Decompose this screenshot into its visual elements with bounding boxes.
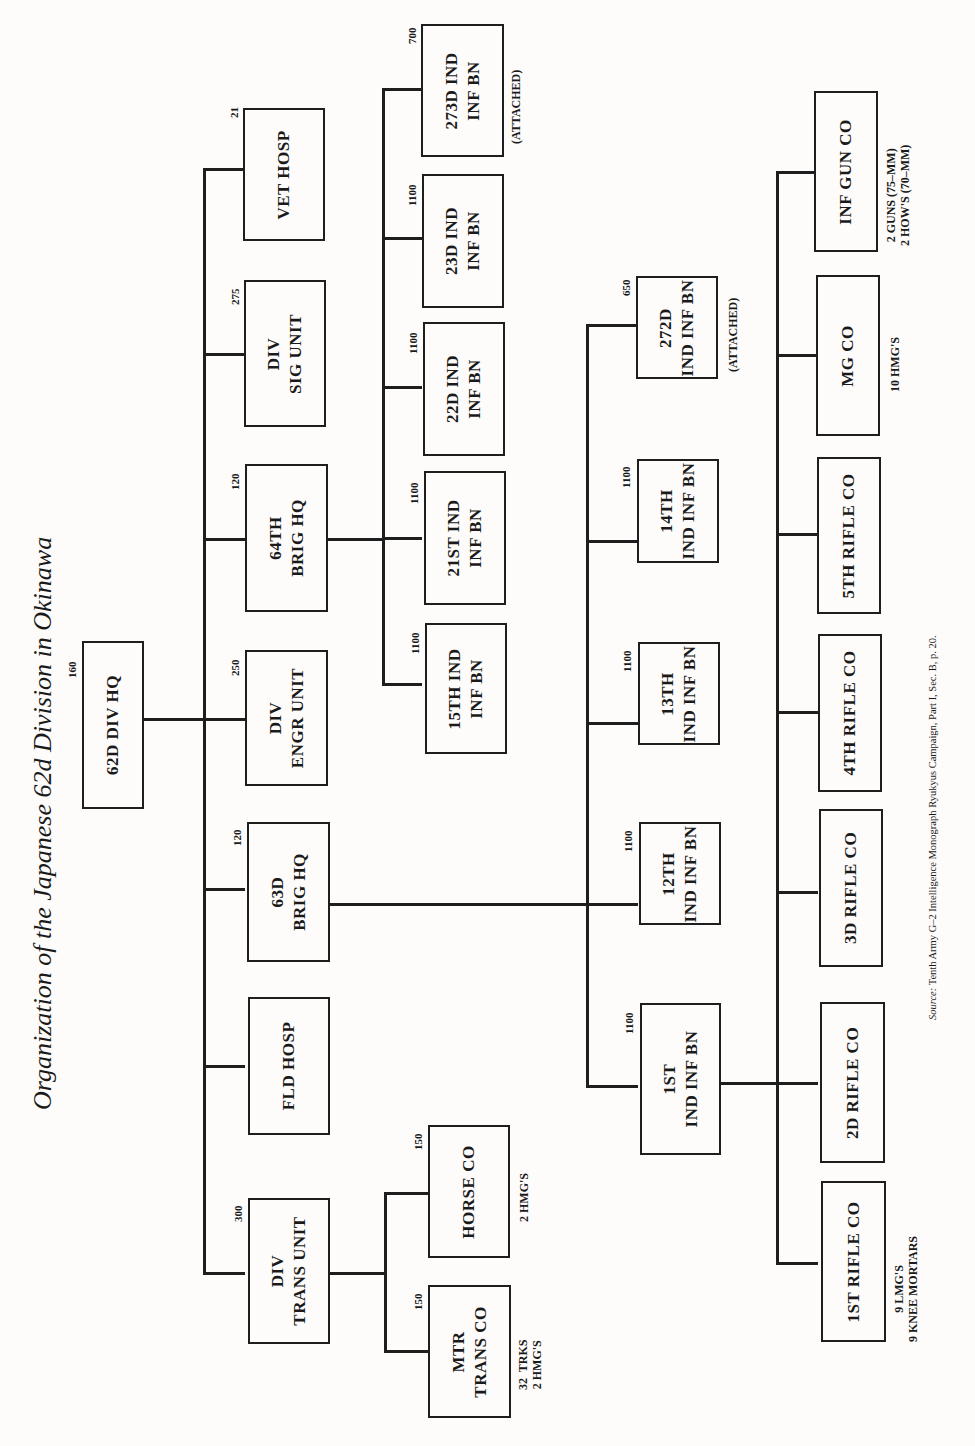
strength-64th-brig: 120 [229,474,241,491]
strength-23d: 1100 [406,185,418,206]
connector [776,1262,818,1265]
connector [382,386,422,389]
connector [203,1065,245,1068]
strength-21st: 1100 [408,483,420,504]
unit-13th-ind-inf-bn: 13TH IND INF BN [638,642,720,745]
unit-horse-co: HORSE CO [428,1125,510,1258]
connector [586,903,638,906]
chart-title: Organization of the Japanese 62d Divisio… [28,537,58,1110]
connector [384,1192,387,1352]
connector [330,903,588,906]
connector [776,533,818,536]
connector [776,1082,818,1085]
connector [586,722,638,725]
connector [586,324,589,1087]
equipment-mg-co: 10 HMG'S [888,337,902,392]
unit-22d-ind-inf-bn: 22D IND INF BN [423,322,505,456]
connector [776,711,818,714]
unit-div-sig-unit: DIV SIG UNIT [244,280,326,427]
connector [776,171,779,1265]
unit-mtr-trans-co: MTR TRANS CO [428,1285,511,1418]
unit-2d-rifle-co: 2D RIFLE CO [820,1002,885,1163]
unit-fld-hosp: FLD HOSP [248,997,330,1135]
strength-12th: 1100 [622,831,634,852]
connector [328,538,384,541]
connector [382,683,422,686]
strength-63d-brig: 120 [231,830,243,847]
note-273d-attached: (ATTACHED) [509,70,523,144]
unit-div-trans-unit: DIV TRANS UNIT [248,1198,330,1344]
unit-21st-ind-inf-bn: 21ST IND INF BN [424,471,506,605]
unit-273d-ind-inf-bn: 273D IND INF BN [421,24,504,157]
connector [203,168,245,171]
strength-engr-unit: 250 [229,660,241,677]
unit-63d-brig-hq: 63D BRIG HQ [247,822,330,962]
strength-div-hq: 160 [66,662,78,679]
connector [776,171,818,174]
connector [382,237,422,240]
unit-1st-rifle-co: 1ST RIFLE CO [821,1181,886,1342]
unit-12th-ind-inf-bn: 12TH IND INF BN [639,822,721,925]
unit-div-engr-unit: DIV ENGR UNIT [245,650,328,786]
strength-22d: 1100 [407,333,419,354]
strength-272d: 650 [620,280,632,297]
connector [776,891,818,894]
strength-15th: 1100 [409,633,421,654]
strength-trans-unit: 300 [232,1206,244,1223]
connector [586,1085,638,1088]
unit-4th-rifle-co: 4TH RIFLE CO [818,634,882,792]
unit-15th-ind-inf-bn: 15TH IND INF BN [425,623,507,754]
equipment-horse-co: 2 HMG'S [517,1173,531,1222]
source-note: Source: Tenth Army G–2 Intelligence Mono… [927,635,938,1020]
connector [586,324,638,327]
strength-horse-co: 150 [412,1134,424,1151]
unit-272d-ind-inf-bn: 272D IND INF BN [636,276,718,379]
strength-273d: 700 [406,28,418,45]
connector [776,354,818,357]
strength-mtr-trans-co: 150 [412,1294,424,1311]
unit-div-hq: 62D DIV HQ [82,641,144,809]
connector [143,718,205,721]
unit-inf-gun-co: INF GUN CO [814,91,878,252]
unit-23d-ind-inf-bn: 23D IND INF BN [422,174,504,308]
connector [382,537,422,540]
unit-1st-ind-inf-bn: 1ST IND INF BN [640,1003,721,1155]
equipment-inf-gun-co: 2 GUNS (75–MM) 2 HOW'S (70–MM) [884,145,912,246]
connector [203,1272,245,1275]
connector [328,1272,386,1275]
connector [720,1082,778,1085]
strength-sig-unit: 275 [229,289,241,306]
connector [203,718,245,721]
unit-mg-co: MG CO [816,275,880,436]
unit-14th-ind-inf-bn: 14TH IND INF BN [637,459,719,563]
unit-64th-brig-hq: 64TH BRIG HQ [245,464,328,612]
unit-5th-rifle-co: 5TH RIFLE CO [817,457,881,614]
connector [203,888,245,891]
unit-vet-hosp: VET HOSP [243,108,325,241]
connector [203,168,206,1275]
strength-vet-hosp: 21 [228,107,240,118]
unit-3d-rifle-co: 3D RIFLE CO [819,809,883,967]
connector [384,1350,428,1353]
connector [382,88,422,91]
connector [384,1192,428,1195]
connector [203,353,245,356]
connector [203,538,245,541]
equipment-mtr-trans-co: 32 TRKS 2 HMG'S [516,1340,544,1390]
note-272d-attached: (ATTACHED) [726,298,740,372]
strength-14th: 1100 [620,467,632,488]
connector [586,540,638,543]
strength-13th: 1100 [621,651,633,672]
strength-1st: 1100 [623,1013,635,1034]
equipment-1st-rifle-co: 9 LMG'S 9 KNEE MORTARS [892,1236,920,1342]
